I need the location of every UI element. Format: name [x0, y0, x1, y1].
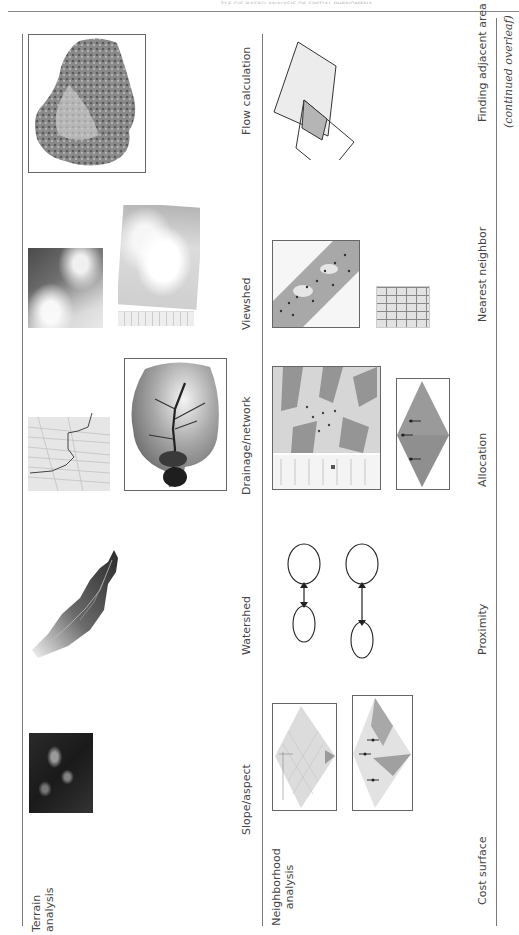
label-drainage-network: Drainage/network [240, 396, 253, 495]
label-nearest-neighbor: Nearest neighbor [476, 227, 489, 322]
slope-aspect-map [29, 733, 93, 813]
table-rule-middle [262, 34, 263, 926]
label-allocation: Allocation [476, 433, 489, 487]
flow-calculation-map [28, 34, 146, 173]
drainage-network-map [28, 413, 110, 491]
running-header: 316 GIS-BASED ANALYSIS OF SPATIAL PHENOM… [220, 0, 450, 4]
label-cost-surface: Cost surface [476, 836, 489, 905]
nearest-neighbor-grid [376, 286, 430, 328]
viewshed-satellite-map [118, 205, 200, 329]
proximity-diagram [280, 540, 390, 660]
row-label-terrain-analysis: Terrain analysis [30, 872, 56, 932]
label-slope-aspect: Slope/aspect [240, 764, 253, 835]
drainage-dem-map [124, 358, 227, 491]
nearest-neighbor-map [272, 240, 360, 328]
cost-surface-diagram-b [352, 695, 413, 811]
table-rule-left [22, 34, 23, 926]
watershed-map [28, 550, 120, 660]
row-label-line: Neighborhood [270, 842, 283, 932]
adjacent-area-diagram [272, 30, 362, 160]
row-label-neighborhood-analysis: Neighborhood analysis [270, 842, 296, 932]
label-watershed: Watershed [240, 596, 253, 655]
label-finding-adjacent-area: Finding adjacent area [476, 3, 489, 122]
table-rule-right [496, 18, 497, 926]
label-viewshed: Viewshed [240, 277, 253, 330]
row-label-line: analysis [283, 842, 296, 932]
viewshed-dem-map [28, 248, 103, 328]
continued-overleaf-note: (continued overleaf) [502, 15, 515, 128]
label-proximity: Proximity [476, 604, 489, 655]
allocation-map [272, 366, 381, 490]
cost-surface-diagram-a [272, 703, 337, 811]
label-flow-calculation: Flow calculation [240, 47, 253, 135]
row-label-line: analysis [43, 872, 56, 932]
header-rule [8, 11, 519, 12]
row-label-line: Terrain [30, 872, 43, 932]
allocation-diagram [396, 378, 450, 490]
